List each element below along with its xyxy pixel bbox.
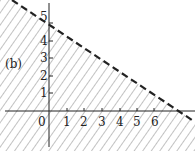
y-tick-5: 5: [40, 10, 48, 24]
y-tick-1: 1: [40, 86, 48, 100]
x-tick-0: 0: [38, 115, 46, 129]
x-tick-2: 2: [80, 115, 88, 129]
x-tick-3: 3: [98, 115, 106, 129]
y-tick-4: 4: [40, 34, 48, 48]
x-tick-5: 5: [133, 115, 141, 129]
x-tick-4: 4: [116, 115, 124, 129]
inequality-graph: 0 1 2 3 4 5 6 1 2 3 4 5 (b): [0, 0, 195, 151]
y-tick-3: 3: [40, 51, 48, 65]
graph-svg: 0 1 2 3 4 5 6 1 2 3 4 5 (b): [0, 0, 195, 151]
x-tick-6: 6: [151, 115, 159, 129]
part-label: (b): [5, 57, 22, 71]
x-tick-1: 1: [63, 115, 71, 129]
y-tick-2: 2: [40, 69, 48, 83]
